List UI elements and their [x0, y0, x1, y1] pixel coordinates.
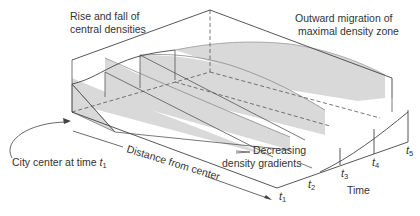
urban-density-diagram: Rise and fall of central densities Outwa… — [0, 0, 420, 216]
city-center-arrow — [10, 122, 68, 158]
city-center-arrowhead-icon — [63, 118, 71, 124]
label-city-center: City center at time t1 — [12, 156, 107, 170]
label-rise-fall-1: Rise and fall of — [70, 10, 140, 22]
label-rise-fall-2: central densities — [70, 23, 146, 35]
tick-t4: t4 — [372, 156, 379, 170]
tick-t2: t2 — [308, 178, 315, 192]
tick-t1: t1 — [279, 190, 286, 204]
tick-t5: t5 — [406, 144, 413, 158]
label-decreasing-1: Decreasing — [253, 144, 306, 156]
label-time-axis: Time — [347, 184, 370, 196]
label-decreasing-2: density gradients — [222, 157, 301, 169]
tick-t3: t3 — [341, 167, 348, 181]
label-outward-1: Outward migration of — [295, 12, 393, 24]
label-outward-2: maximal density zone — [298, 25, 399, 37]
distance-arrowhead-icon — [264, 195, 272, 200]
